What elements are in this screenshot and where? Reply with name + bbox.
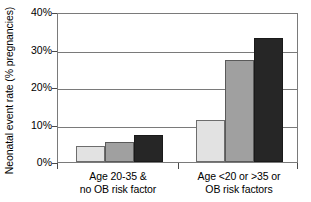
y-axis-tick-labels: 0% 10% 20% 30% 40%	[14, 0, 52, 202]
category-label-2: Age <20 or >35 or OB risk factors	[179, 170, 299, 196]
category-label-1-line2: no OB risk factor	[58, 183, 178, 196]
y-tick-label-40: 40%	[14, 7, 52, 18]
bar-group2-series1	[196, 120, 225, 162]
category-label-1: Age 20-35 & no OB risk factor	[58, 170, 178, 196]
y-tick-label-0: 0%	[14, 157, 52, 168]
bar-chart: Neonatal event rate (% pregnancies) 0% 1…	[0, 0, 311, 202]
category-label-2-line2: OB risk factors	[179, 183, 299, 196]
plot-area	[57, 13, 298, 163]
y-tick-label-30: 30%	[14, 45, 52, 56]
bar-group1-series2	[105, 142, 134, 162]
bar-group1-series3	[134, 135, 163, 162]
category-tickmark-right	[297, 163, 298, 169]
category-tickmark-mid	[178, 163, 179, 169]
bar-group1-series1	[76, 146, 105, 162]
category-tickmark-left	[57, 163, 58, 169]
bar-group2-series3	[254, 38, 283, 162]
y-tick-label-10: 10%	[14, 120, 52, 131]
category-label-1-line1: Age 20-35 &	[58, 170, 178, 183]
y-tick-label-20: 20%	[14, 82, 52, 93]
bar-group2-series2	[225, 60, 254, 162]
category-label-2-line1: Age <20 or >35 or	[179, 170, 299, 183]
